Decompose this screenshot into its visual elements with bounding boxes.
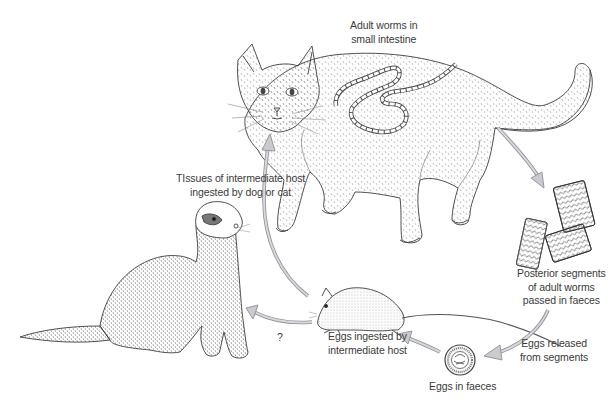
label-question-mark: ? [277, 331, 283, 345]
label-line: of adult worms [517, 281, 606, 295]
label-eggs-in-faeces: Eggs in faeces [429, 380, 496, 394]
label-line: ingested by dog or cat [176, 186, 305, 200]
ferret-illustration [20, 202, 250, 358]
label-line: intermediate host [328, 344, 407, 358]
label-line: Eggs in faeces [429, 380, 496, 394]
egg-illustration [445, 345, 475, 375]
label-line: passed in faeces [517, 294, 606, 308]
label-adult-worms: Adult worms in small intestine [350, 19, 417, 46]
label-line: TIssues of intermediate host [176, 172, 305, 186]
label-line: Eggs released [520, 337, 588, 351]
arrow-cat-to-segments-icon [498, 128, 544, 188]
label-posterior-segments: Posterior segments of adult worms passed… [517, 267, 606, 308]
label-eggs-ingested: Eggs ingested by intermediate host [328, 330, 407, 357]
label-line: Eggs ingested by [328, 330, 407, 344]
label-eggs-released: Eggs released from segments [520, 337, 588, 364]
worm-segments-illustration [516, 180, 595, 269]
arrow-mouse-to-ferret-icon [246, 305, 312, 323]
label-line: Adult worms in [350, 19, 417, 33]
label-line: Posterior segments [517, 267, 606, 281]
label-line: ? [277, 331, 283, 345]
label-line: small intestine [350, 33, 417, 47]
label-tissues-ingested: TIssues of intermediate host ingested by… [176, 172, 305, 199]
tapeworm-life-cycle-diagram: Adult worms in small intestine TIssues o… [0, 0, 615, 404]
label-line: from segments [520, 351, 588, 365]
cat-illustration [228, 44, 592, 243]
